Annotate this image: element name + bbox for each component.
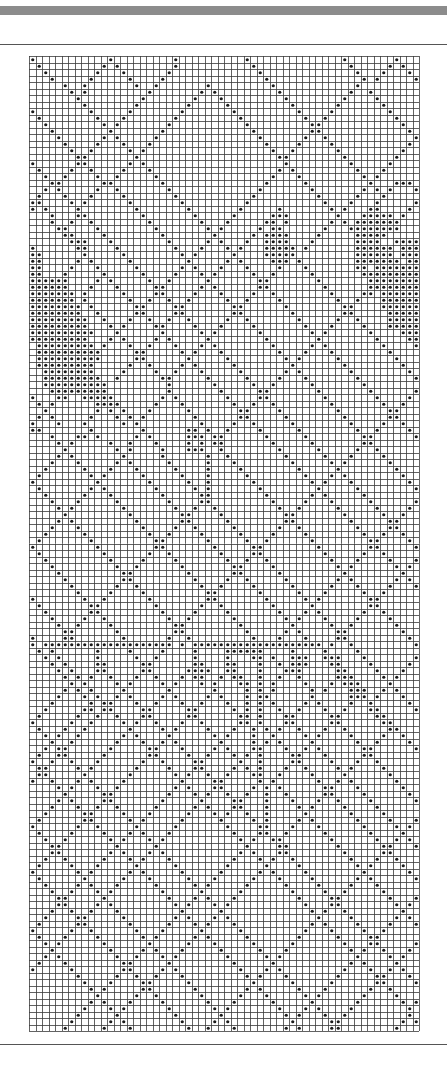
bottom-rule bbox=[0, 1044, 447, 1045]
header-bar bbox=[0, 6, 447, 15]
dot-grid-canvas bbox=[29, 56, 420, 1032]
top-rule bbox=[0, 44, 447, 45]
dot-grid bbox=[29, 56, 420, 1032]
